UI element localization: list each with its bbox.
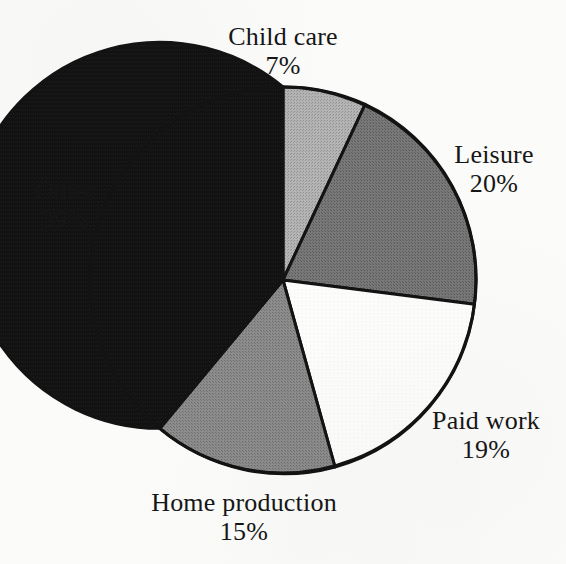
pie-label-leisure-name: Leisure (430, 140, 558, 169)
pie-label-paid-work: Paid work 19% (410, 406, 562, 464)
pie-label-leisure-percent: 20% (430, 169, 558, 198)
pie-label-other: Other 39% (6, 176, 124, 234)
pie-label-child-care-percent: 7% (203, 51, 363, 80)
pie-label-home-production-name: Home production (128, 488, 360, 517)
pie-chart-figure: Child care 7% Leisure 20% Paid work 19% … (0, 0, 566, 564)
pie-label-home-production-percent: 15% (128, 517, 360, 546)
pie-label-leisure: Leisure 20% (430, 140, 558, 198)
pie-label-home-production: Home production 15% (128, 488, 360, 546)
pie-label-paid-work-name: Paid work (410, 406, 562, 435)
pie-chart-canvas (0, 0, 566, 564)
pie-label-child-care-name: Child care (203, 22, 363, 51)
pie-label-child-care: Child care 7% (203, 22, 363, 80)
pie-label-other-percent: 39% (6, 205, 124, 234)
pie-label-paid-work-percent: 19% (410, 435, 562, 464)
pie-label-other-name: Other (6, 176, 124, 205)
